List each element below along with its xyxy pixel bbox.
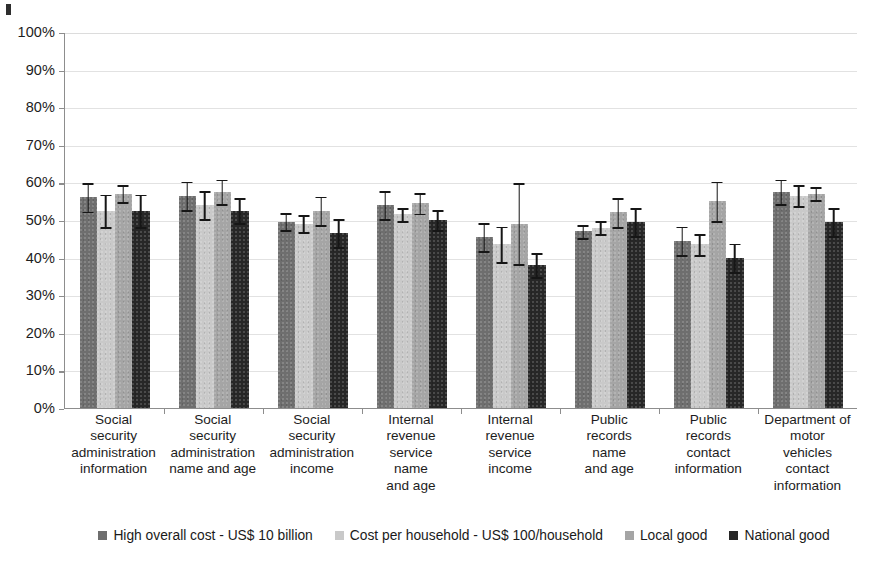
bar-slot[interactable] <box>377 33 395 408</box>
bar-slot[interactable] <box>80 33 98 408</box>
bar[interactable] <box>691 244 709 408</box>
bar[interactable] <box>330 233 348 408</box>
bar-slot[interactable] <box>295 33 313 408</box>
bar-slot[interactable] <box>231 33 249 408</box>
y-axis-tick-mark <box>59 371 64 372</box>
bar[interactable] <box>726 258 744 408</box>
x-axis-label: Publicrecordscontactinformation <box>659 412 758 494</box>
bar[interactable] <box>278 222 296 408</box>
bar-slot[interactable] <box>627 33 645 408</box>
bar-slot[interactable] <box>528 33 546 408</box>
x-axis-label-line: records <box>661 428 756 444</box>
bar-slot[interactable] <box>808 33 826 408</box>
bar-slot[interactable] <box>278 33 296 408</box>
bar[interactable] <box>592 228 610 408</box>
legend-item[interactable]: Cost per household - US$ 100/household <box>335 528 603 543</box>
bar[interactable] <box>132 211 150 408</box>
bar[interactable] <box>394 214 412 408</box>
error-bar <box>479 223 490 253</box>
bar-slot[interactable] <box>97 33 115 408</box>
bar-slot[interactable] <box>476 33 494 408</box>
bar[interactable] <box>214 192 232 408</box>
legend-item[interactable]: National good <box>729 528 829 543</box>
bar-slot[interactable] <box>674 33 692 408</box>
error-bar <box>514 183 525 266</box>
y-axis-tick-label: 10% <box>0 362 55 378</box>
y-axis-tick-mark <box>59 33 64 34</box>
bar[interactable] <box>610 212 628 408</box>
y-axis-tick-label: 20% <box>0 325 55 341</box>
bar[interactable] <box>773 192 791 408</box>
bar-slot[interactable] <box>132 33 150 408</box>
bar-slot[interactable] <box>196 33 214 408</box>
x-axis-label-line: administration <box>264 445 359 461</box>
error-bar <box>118 185 129 204</box>
legend-label: Local good <box>640 528 708 543</box>
bar[interactable] <box>97 211 115 408</box>
bar[interactable] <box>115 194 133 408</box>
bar[interactable] <box>476 237 494 408</box>
bar-slot[interactable] <box>214 33 232 408</box>
bar-slot[interactable] <box>592 33 610 408</box>
x-axis-label-line: income <box>264 461 359 477</box>
x-axis-label-line: revenue <box>363 428 458 444</box>
x-axis-label-line: Social <box>264 412 359 428</box>
bar-group <box>263 33 362 408</box>
error-bar <box>595 221 606 236</box>
x-axis-label: Internalrevenueserviceincome <box>461 412 560 494</box>
bar[interactable] <box>493 244 511 408</box>
bar[interactable] <box>429 220 447 408</box>
bar-group <box>65 33 164 408</box>
bar-slot[interactable] <box>394 33 412 408</box>
bar[interactable] <box>377 205 395 408</box>
x-axis-label: Socialsecurityadministrationincome <box>262 412 361 494</box>
bar[interactable] <box>179 196 197 408</box>
bar-slot[interactable] <box>511 33 529 408</box>
bar-slot[interactable] <box>773 33 791 408</box>
bar-group <box>560 33 659 408</box>
bar[interactable] <box>790 196 808 408</box>
bar-slot[interactable] <box>709 33 727 408</box>
error-bar <box>100 195 111 229</box>
y-axis-tick-label: 50% <box>0 212 55 228</box>
error-bar <box>380 191 391 221</box>
bar-slot[interactable] <box>115 33 133 408</box>
bar-slot[interactable] <box>790 33 808 408</box>
bar-slot[interactable] <box>825 33 843 408</box>
error-bar <box>199 191 210 221</box>
bar[interactable] <box>674 241 692 408</box>
legend-item[interactable]: High overall cost - US$ 10 billion <box>98 528 312 543</box>
bar[interactable] <box>575 231 593 408</box>
bar[interactable] <box>412 203 430 408</box>
legend-swatch <box>729 531 738 540</box>
error-bar <box>811 187 822 202</box>
bar-slot[interactable] <box>179 33 197 408</box>
bar-slot[interactable] <box>691 33 709 408</box>
bar[interactable] <box>295 224 313 408</box>
bar[interactable] <box>627 222 645 408</box>
y-axis-tick-label: 70% <box>0 137 55 153</box>
bar-slot[interactable] <box>412 33 430 408</box>
x-axis-label-line: information <box>661 461 756 477</box>
error-bar <box>415 193 426 216</box>
bar[interactable] <box>808 194 826 408</box>
bar[interactable] <box>825 222 843 408</box>
bar[interactable] <box>80 197 98 408</box>
bar-slot[interactable] <box>726 33 744 408</box>
bar-slot[interactable] <box>429 33 447 408</box>
bar-slot[interactable] <box>575 33 593 408</box>
y-axis-tick-mark <box>59 334 64 335</box>
bar[interactable] <box>313 211 331 408</box>
bar-slot[interactable] <box>313 33 331 408</box>
bar[interactable] <box>231 211 249 408</box>
bar[interactable] <box>709 201 727 408</box>
bar[interactable] <box>196 205 214 408</box>
legend-label: National good <box>744 528 829 543</box>
bar-slot[interactable] <box>610 33 628 408</box>
bar-slot[interactable] <box>330 33 348 408</box>
bar[interactable] <box>528 265 546 408</box>
y-axis-tick-label: 80% <box>0 99 55 115</box>
error-bar <box>217 180 228 206</box>
bar-slot[interactable] <box>493 33 511 408</box>
legend-item[interactable]: Local good <box>625 528 708 543</box>
